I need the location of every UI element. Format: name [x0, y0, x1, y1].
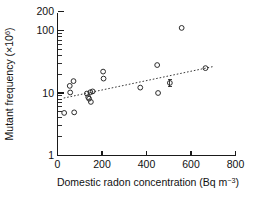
- data-point-marker: [62, 111, 67, 116]
- y-axis-ticks: [58, 12, 64, 156]
- data-point-marker: [72, 110, 77, 115]
- regression-trend-line: [64, 67, 214, 99]
- data-point-marker: [179, 26, 184, 31]
- x-axis-ticks: [58, 151, 236, 156]
- data-point-marker: [156, 91, 161, 96]
- data-point-marker: [101, 69, 106, 74]
- y-axis-tick-labels: 110100200: [36, 5, 54, 161]
- x-axis: 0200400600800: [55, 151, 245, 170]
- chart-svg: 110100200 0200400600800 Domestic radon c…: [0, 0, 260, 199]
- x-axis-tick-labels: 0200400600800: [55, 158, 245, 170]
- x-tick-label: 0: [55, 158, 61, 170]
- radon-mutant-frequency-chart: 110100200 0200400600800 Domestic radon c…: [0, 0, 260, 199]
- data-point-marker: [68, 90, 73, 95]
- x-tick-label: 600: [182, 158, 200, 170]
- data-point-marker: [155, 63, 160, 68]
- x-tick-label: 800: [227, 158, 245, 170]
- data-point-marker: [71, 79, 76, 84]
- trend-line: [64, 67, 214, 99]
- y-tick-label: 10: [42, 87, 54, 99]
- data-point-marker: [138, 85, 143, 90]
- y-axis-title: Mutant frequency (×106): [3, 28, 16, 141]
- x-axis-title: Domestic radon concentration (Bq m−3): [57, 176, 239, 189]
- x-tick-label: 400: [138, 158, 156, 170]
- data-points: [62, 26, 208, 116]
- y-tick-label: 200: [36, 5, 54, 17]
- y-axis: 110100200: [36, 5, 63, 161]
- data-point-marker: [67, 83, 72, 88]
- y-tick-label: 1: [48, 149, 54, 161]
- y-tick-label: 100: [36, 24, 54, 36]
- data-point-marker: [101, 76, 106, 81]
- x-tick-label: 200: [93, 158, 111, 170]
